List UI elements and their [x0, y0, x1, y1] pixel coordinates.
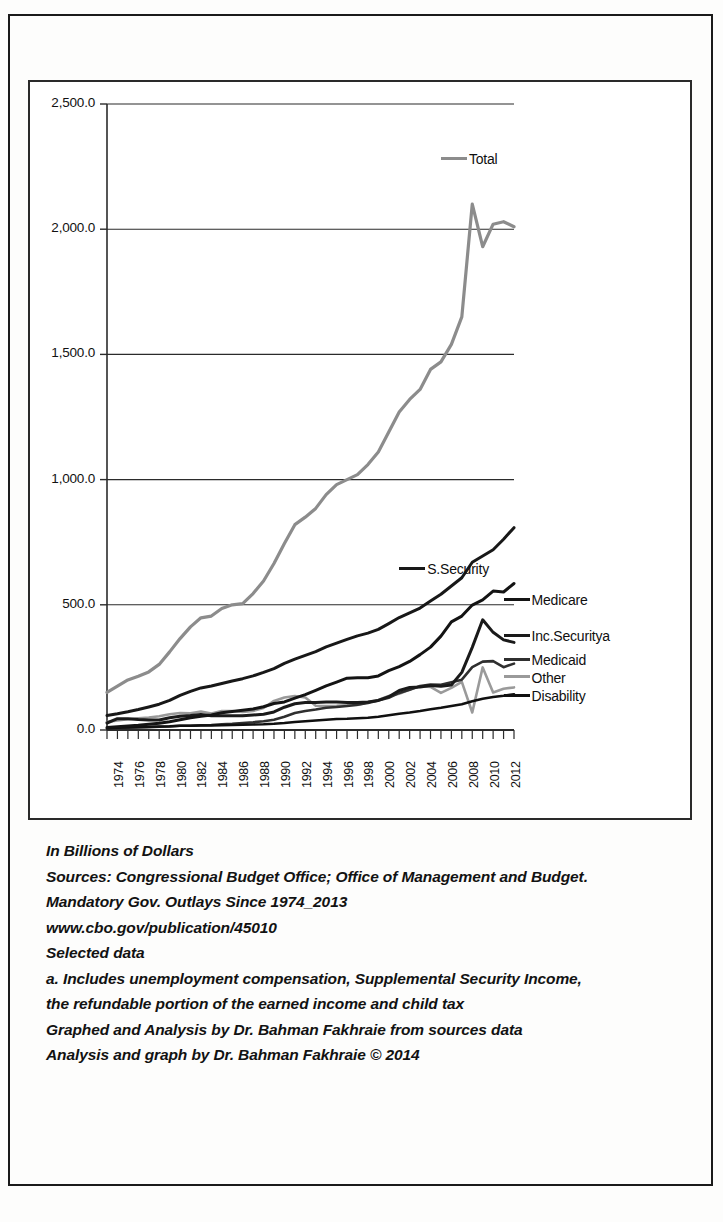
legend-swatch	[504, 634, 530, 637]
chart-frame: 0.0500.01,000.01,500.02,000.02,500.0 197…	[28, 80, 692, 820]
x-tick-label: 1980	[175, 761, 189, 788]
x-tick-label: 2010	[488, 761, 502, 788]
y-tick-label: 2,500.0	[30, 95, 95, 110]
legend-swatch	[504, 598, 530, 601]
x-tick-label: 1988	[258, 761, 272, 788]
x-tick-label: 1996	[342, 761, 356, 788]
y-tick-label: 1,000.0	[30, 471, 95, 486]
series-label-medicaid: Medicaid	[504, 651, 586, 668]
x-tick-label: 2012	[509, 761, 523, 788]
x-tick-label: 2004	[425, 761, 439, 788]
legend-swatch	[504, 694, 530, 697]
y-tick-label: 1,500.0	[30, 345, 95, 360]
x-tick-label: 1974	[112, 761, 126, 788]
caption-line: the refundable portion of the earned inc…	[46, 991, 682, 1017]
legend-swatch	[504, 658, 530, 661]
x-tick-label: 1982	[195, 761, 209, 788]
series-label-text: Medicare	[532, 592, 588, 608]
caption-line: Selected data	[46, 940, 682, 966]
caption-line: a. Includes unemployment compensation, S…	[46, 966, 682, 992]
caption-line: www.cbo.gov/publication/45010	[46, 915, 682, 941]
series-label-medicare: Medicare	[504, 591, 588, 608]
caption-line: Mandatory Gov. Outlays Since 1974_2013	[46, 889, 682, 915]
y-tick-label: 500.0	[30, 596, 95, 611]
x-tick-label: 1976	[133, 761, 147, 788]
caption-line: Analysis and graph by Dr. Bahman Fakhrai…	[46, 1042, 682, 1068]
x-tick-label: 1986	[237, 761, 251, 788]
scanned-page: 0.0500.01,000.01,500.02,000.02,500.0 197…	[0, 0, 723, 1222]
caption-line: Sources: Congressional Budget Office; Of…	[46, 864, 682, 890]
series-label-text: Total	[469, 152, 498, 168]
legend-swatch	[504, 675, 530, 678]
x-tick-label: 2000	[383, 761, 397, 788]
x-tick-label: 2008	[467, 761, 481, 788]
x-tick-label: 1990	[279, 761, 293, 788]
legend-swatch	[399, 567, 425, 570]
x-tick-label: 2002	[404, 761, 418, 788]
series-label-text: Disability	[532, 689, 586, 705]
series-label-text: S.Security	[427, 561, 489, 577]
x-tick-label: 2006	[446, 761, 460, 788]
series-line-other	[107, 667, 514, 722]
series-label-text: Other	[532, 670, 566, 686]
plot-area: 0.0500.01,000.01,500.02,000.02,500.0 197…	[30, 82, 694, 822]
y-tick-label: 2,000.0	[30, 220, 95, 235]
x-tick-label: 1998	[362, 761, 376, 788]
series-line-inc-securitya	[107, 620, 514, 723]
series-label-inc-securitya: Inc.Securitya	[504, 627, 610, 644]
series-label-text: Medicaid	[532, 652, 586, 668]
x-tick-label: 1994	[321, 761, 335, 788]
legend-swatch	[441, 157, 467, 160]
x-tick-label: 1992	[300, 761, 314, 788]
caption-line: Graphed and Analysis by Dr. Bahman Fakhr…	[46, 1017, 682, 1043]
series-label-text: Inc.Securitya	[532, 629, 610, 645]
series-label-other: Other	[504, 669, 566, 686]
x-tick-label: 1978	[154, 761, 168, 788]
x-tick-label: 1984	[216, 761, 230, 788]
caption-line: In Billions of Dollars	[46, 838, 682, 864]
series-label-s-security: S.Security	[399, 560, 489, 577]
series-line-total	[107, 204, 514, 692]
series-label-disability: Disability	[504, 687, 586, 704]
y-tick-label: 0.0	[30, 721, 95, 736]
series-label-total: Total	[441, 150, 498, 167]
line-chart-canvas	[30, 82, 694, 822]
caption-block: In Billions of DollarsSources: Congressi…	[46, 838, 682, 1068]
